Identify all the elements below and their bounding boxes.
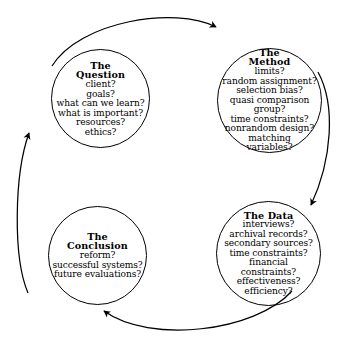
cycle-diagram: The Question client? goals? what can we … xyxy=(0,0,347,354)
node-conclusion-text: The Conclusion reform? successful system… xyxy=(18,231,178,279)
node-data-item: efficiency? xyxy=(189,287,347,296)
node-conclusion[interactable]: The Conclusion reform? successful system… xyxy=(48,206,147,305)
node-method[interactable]: The Method limits? random assignment? se… xyxy=(217,48,322,153)
node-data-text: The Data interviews? archival records? s… xyxy=(189,211,347,297)
node-question-text: The Question client? goals? what can we … xyxy=(21,60,181,137)
node-conclusion-item: future evaluations? xyxy=(18,270,178,279)
node-method-text: The Method limits? random assignment? se… xyxy=(190,48,347,153)
node-question[interactable]: The Question client? goals? what can we … xyxy=(51,49,150,148)
node-data[interactable]: The Data interviews? archival records? s… xyxy=(216,201,321,306)
node-question-item: ethics? xyxy=(21,127,181,136)
node-method-item: variables? xyxy=(190,144,347,153)
